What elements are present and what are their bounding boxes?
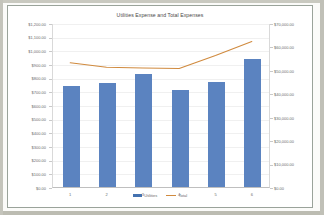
legend-item[interactable]: Total [166,193,187,198]
total-line-path [70,42,252,69]
page-edge-top [0,0,324,3]
legend-item[interactable]: Utilities [133,193,157,198]
y-tick-label-left: $900.00 [6,63,46,68]
y-tick-label-left: $700.00 [6,90,46,95]
page-edge-bottom [0,211,324,215]
y-tick-mark-left [49,38,52,39]
y-tick-label-right: $0.00 [274,186,318,191]
line-series-total [52,24,270,188]
y-tick-label-left: $1,100.00 [6,35,46,40]
y-tick-mark-left [49,188,52,189]
page-edge-right [320,0,324,215]
y-tick-mark-left [49,92,52,93]
legend-swatch-line-icon [166,195,176,196]
page-edge-left [0,0,3,215]
chart-legend: UtilitiesTotal [8,193,312,198]
y-tick-label-right: $10,000.00 [274,162,318,167]
y-tick-mark-left [49,51,52,52]
y-tick-mark-right [270,94,273,95]
y-tick-mark-left [49,120,52,121]
chart-title: Utilities Expense and Total Expenses [8,12,312,18]
y-tick-label-left: $600.00 [6,104,46,109]
y-tick-mark-left [49,65,52,66]
y-tick-label-left: $0.00 [6,186,46,191]
y-tick-mark-right [270,47,273,48]
y-tick-label-right: $20,000.00 [274,139,318,144]
y-tick-label-left: $800.00 [6,76,46,81]
y-tick-mark-left [49,24,52,25]
y-tick-mark-left [49,147,52,148]
y-tick-label-right: $40,000.00 [274,92,318,97]
legend-swatch-bar-icon [133,194,142,198]
y-tick-label-left: $400.00 [6,131,46,136]
y-tick-mark-right [270,24,273,25]
y-tick-mark-left [49,161,52,162]
y-tick-mark-left [49,106,52,107]
y-tick-mark-right [270,165,273,166]
chart-frame: Utilities Expense and Total Expenses 123… [7,5,313,208]
y-tick-mark-left [49,79,52,80]
y-tick-mark-right [270,118,273,119]
y-tick-label-left: $200.00 [6,158,46,163]
y-tick-mark-left [49,133,52,134]
scanned-page: Utilities Expense and Total Expenses 123… [0,0,324,215]
y-tick-label-left: $500.00 [6,117,46,122]
legend-label: Utilities [144,193,157,198]
y-tick-mark-right [270,141,273,142]
y-tick-label-left: $1,000.00 [6,49,46,54]
legend-label: Total [179,193,187,198]
y-tick-mark-right [270,188,273,189]
y-tick-label-left: $1,200.00 [6,22,46,27]
y-tick-label-right: $60,000.00 [274,45,318,50]
y-tick-label-left: $100.00 [6,172,46,177]
y-tick-label-right: $30,000.00 [274,116,318,121]
y-tick-mark-right [270,71,273,72]
y-tick-label-right: $70,000.00 [274,22,318,27]
y-tick-label-right: $50,000.00 [274,69,318,74]
y-tick-mark-left [49,174,52,175]
y-tick-label-left: $300.00 [6,145,46,150]
